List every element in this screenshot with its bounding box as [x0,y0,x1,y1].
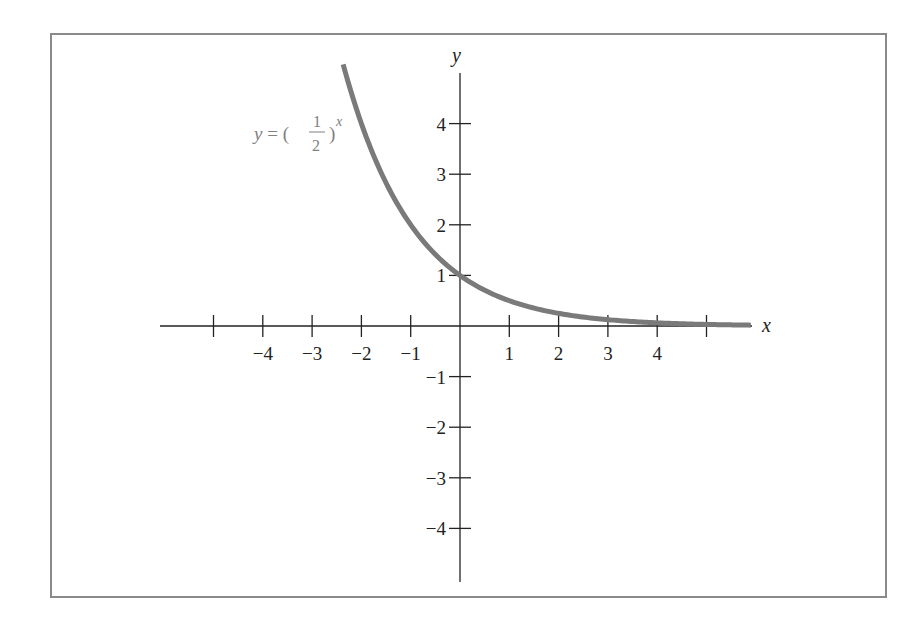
equation-label: y = ( 1 2 ) x [252,113,343,154]
x-tick-label: 3 [603,343,613,364]
y-tick-label: 4 [437,114,447,135]
equation-rhs: ) [329,123,335,145]
x-tick-label: −2 [351,343,371,364]
x-tick-label: 4 [652,343,662,364]
y-tick-label: 3 [437,164,447,185]
y-tick-label: 1 [437,265,447,286]
exponential-curve [343,64,751,325]
y-tick-label: −3 [426,468,446,489]
y-tick-label: −1 [426,367,446,388]
equation-exponent: x [335,114,343,129]
plot-area: −4−3−2−11234−4−3−2−11234 x y y = ( 1 2 )… [0,0,919,631]
y-tick-label: −4 [426,518,447,539]
equation-denominator: 2 [312,137,320,154]
equation-lhs: y = ( [252,123,289,145]
x-tick-label: 1 [505,343,515,364]
y-tick-label: −2 [426,417,446,438]
x-tick-label: −1 [401,343,421,364]
y-axis-label: y [450,44,461,67]
x-tick-label: −3 [302,343,322,364]
equation-numerator: 1 [313,113,321,130]
x-tick-label: −4 [253,343,274,364]
x-tick-label: 2 [554,343,564,364]
x-axis-label: x [761,314,771,336]
y-tick-label: 2 [437,215,447,236]
axes [160,73,752,582]
